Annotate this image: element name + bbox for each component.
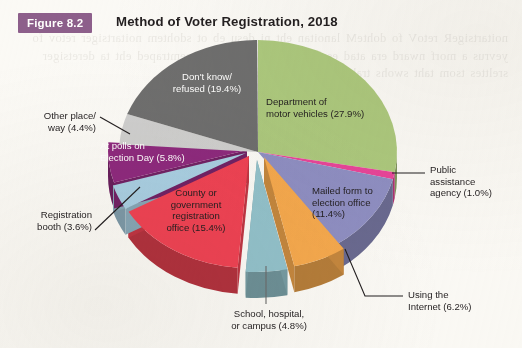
slice-label-mailed-form: Mailed form to election office (11.4%)	[312, 185, 416, 220]
slice-label-dmv: Department of motor vehicles (27.9%)	[266, 96, 416, 119]
slice-label-at-polls: At polls on Election Day (5.8%)	[100, 140, 220, 163]
slice-label-other-place: Other place/ way (4.4%)	[12, 110, 96, 133]
figure-title: Method of Voter Registration, 2018	[116, 14, 338, 29]
figure-number-badge: Figure 8.2	[18, 13, 92, 33]
slice-label-internet: Using the Internet (6.2%)	[408, 289, 512, 312]
slice-label-registration-booth: Registration booth (3.6%)	[12, 209, 92, 232]
slice-label-school-hospital: School, hospital, or campus (4.8%)	[196, 308, 342, 331]
slice-label-county-office: County or government registration office…	[144, 187, 248, 233]
slice-label-public-assistance: Public assistance agency (1.0%)	[430, 164, 516, 199]
slice-label-dont-know: Don't know/ refused (19.4%)	[148, 71, 266, 94]
figure-header: Figure 8.2 Method of Voter Registration,…	[0, 0, 522, 40]
